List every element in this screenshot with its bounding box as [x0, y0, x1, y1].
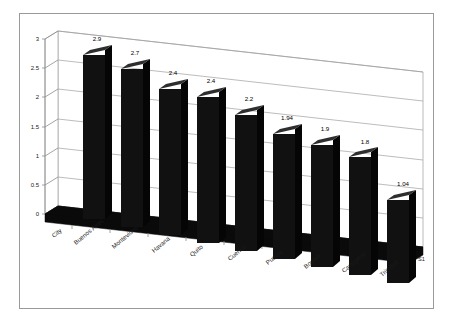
- ytick-label-0: 0: [36, 211, 40, 217]
- ytick-label-6: 3: [36, 36, 40, 42]
- chart-plot-area: 0 0.5 1 1.5 2 2.5 3: [20, 14, 435, 310]
- value-label-puebla: 1.94: [281, 114, 294, 121]
- bar-puebla: [273, 124, 302, 259]
- value-label-buenos-aires: 2.9: [93, 35, 102, 42]
- value-axis-ticks: [42, 39, 45, 214]
- bar-cuenca: [235, 105, 264, 251]
- category-axis-title: City: [50, 226, 63, 239]
- ytick-label-2: 1: [36, 153, 40, 159]
- category-label-havana: Havana: [150, 234, 171, 253]
- bar-montevideo: [121, 59, 150, 227]
- chart-frame-border: 0 0.5 1 1.5 2 2.5 3: [19, 13, 434, 309]
- value-label-quito: 2.4: [207, 77, 216, 84]
- bar-bogota: [311, 135, 340, 267]
- value-label-cartagena: 1.8: [361, 138, 370, 145]
- bar-havana: [159, 79, 188, 235]
- bar-buenos-aires: [83, 45, 112, 219]
- series-axis-label: S1: [418, 256, 425, 262]
- value-label-bogota: 1.9: [321, 125, 330, 132]
- value-label-cuenca: 2.2: [245, 95, 254, 102]
- three-d-column-chart: 0 0.5 1 1.5 2 2.5 3: [20, 14, 435, 310]
- chart-left-wall: [45, 31, 58, 214]
- value-label-trinidad: 1.04: [397, 180, 410, 187]
- ytick-label-5: 2.5: [31, 65, 40, 71]
- value-label-montevideo: 2.7: [131, 49, 140, 56]
- value-axis-tick-labels: 0 0.5 1 1.5 2 2.5 3: [31, 36, 40, 217]
- chart-screenshot: 0 0.5 1 1.5 2 2.5 3: [0, 0, 453, 323]
- ytick-label-3: 1.5: [31, 124, 40, 130]
- ytick-label-1: 0.5: [31, 182, 40, 188]
- ytick-label-4: 2: [36, 94, 40, 100]
- bar-quito: [197, 87, 226, 243]
- category-label-quito: Quito: [188, 243, 204, 258]
- value-label-havana: 2.4: [169, 69, 178, 76]
